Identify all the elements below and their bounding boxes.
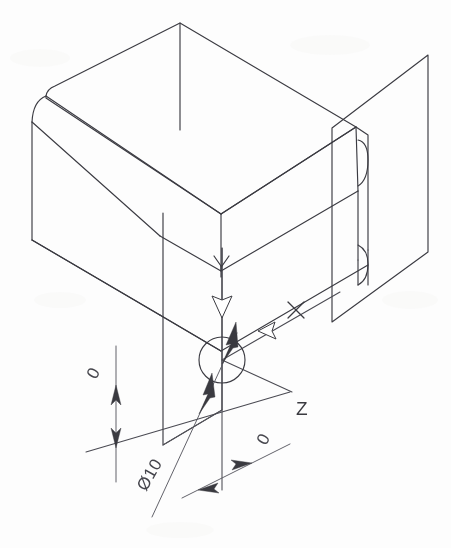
z-axis-label: Z	[296, 398, 308, 419]
technical-drawing-canvas: Z X Y	[0, 0, 451, 548]
paper-background	[0, 0, 451, 548]
cad-drawing-svg: Z X Y	[0, 0, 451, 548]
